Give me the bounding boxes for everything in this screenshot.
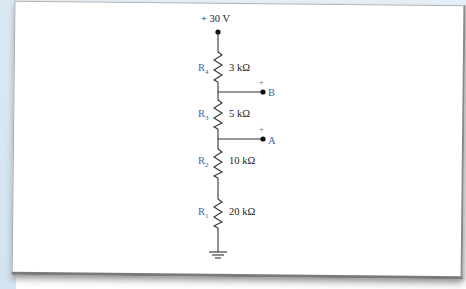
terminal-a-label: A bbox=[268, 135, 276, 146]
terminal-a-polarity: + bbox=[259, 125, 264, 134]
r1-name: R1 bbox=[198, 206, 209, 220]
r3-value: 5 kΩ bbox=[229, 108, 250, 119]
resistor-r1 bbox=[214, 199, 222, 228]
r1-value: 20 kΩ bbox=[229, 206, 255, 217]
ground-icon bbox=[209, 252, 227, 258]
terminal-a-node[interactable] bbox=[260, 136, 265, 141]
supply-label: + 30 V bbox=[201, 13, 230, 24]
terminal-b-polarity: + bbox=[259, 78, 264, 87]
terminal-b-node[interactable] bbox=[260, 89, 265, 94]
r3-name: R3 bbox=[198, 108, 209, 122]
resistor-r2 bbox=[214, 149, 222, 178]
circuit-diagram: + 30 V R4 3 kΩ + B R3 5 kΩ + A R2 10 kΩ … bbox=[0, 0, 466, 289]
r2-name: R2 bbox=[198, 155, 209, 169]
r4-name: R4 bbox=[198, 62, 209, 76]
resistor-r3 bbox=[214, 100, 222, 129]
r4-value: 3 kΩ bbox=[229, 62, 250, 73]
r2-value: 10 kΩ bbox=[229, 155, 255, 166]
resistor-r4 bbox=[214, 52, 222, 82]
terminal-b-label: B bbox=[268, 87, 275, 98]
